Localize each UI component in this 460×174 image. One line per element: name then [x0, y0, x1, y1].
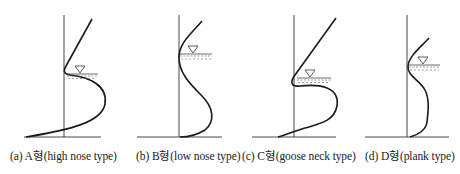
water-level-symbol-icon — [180, 46, 212, 59]
panel-d-plank: (d) D형(plank type) — [350, 0, 460, 174]
water-level-symbol-icon — [409, 57, 440, 70]
profile-curve — [408, 38, 429, 137]
caption-d: (d) D형(plank type) — [365, 147, 455, 163]
profile-curve — [179, 21, 212, 137]
caption-a: (a) A형(high nose type) — [10, 147, 117, 163]
panel-c-goose-neck: (c) C형(goose neck type) — [230, 0, 350, 174]
caption-c: (c) C형(goose neck type) — [242, 147, 356, 163]
caption-b: (b) B형(low nose type) — [136, 147, 240, 163]
water-level-symbol-icon — [297, 70, 331, 83]
profile-curve — [26, 19, 105, 137]
panel-b-low-nose: (b) B형(low nose type) — [120, 0, 230, 174]
profile-curve — [278, 18, 337, 137]
panel-a-high-nose: (a) A형(high nose type) — [0, 0, 120, 174]
